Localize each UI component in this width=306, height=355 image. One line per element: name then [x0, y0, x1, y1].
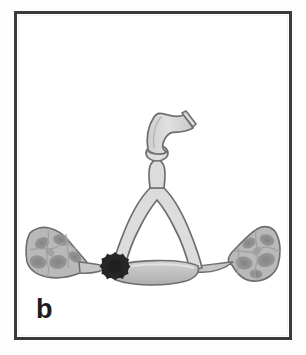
panel-label: b [36, 294, 53, 324]
figure-illustration: b [0, 0, 306, 355]
figure-panel: b [0, 0, 306, 355]
star-core-icon [108, 259, 122, 273]
